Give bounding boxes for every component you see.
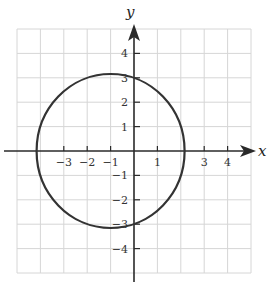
y-tick-label: −3: [112, 218, 128, 231]
x-tick-label: −3: [56, 156, 72, 169]
y-tick-label: 1: [121, 121, 128, 134]
x-tick-label: −1: [102, 156, 118, 169]
y-tick-label: 2: [121, 96, 128, 109]
y-tick-label: 3: [121, 72, 128, 85]
x-tick-label: 4: [224, 156, 231, 169]
x-tick-label: −2: [79, 156, 95, 169]
coordinate-plane: −3 −2 −1 1 3 4 4 3 2 1 −1 −2 −3 −4 x y: [0, 0, 270, 282]
x-tick-label: 3: [201, 156, 208, 169]
y-tick-label: 4: [121, 47, 128, 60]
x-tick-label: 1: [154, 156, 161, 169]
y-tick-label: −2: [112, 194, 128, 207]
y-axis-label: y: [125, 3, 135, 21]
y-tick-label: −4: [112, 243, 128, 256]
x-axis-label: x: [258, 142, 267, 160]
y-tick-label: −1: [112, 169, 128, 182]
